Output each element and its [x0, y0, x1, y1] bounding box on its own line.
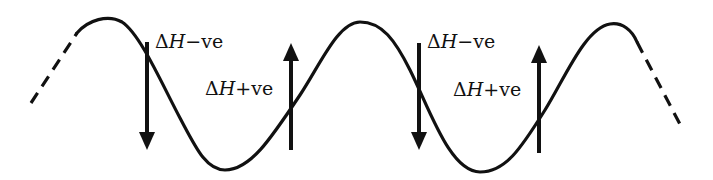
arrow-up-2	[531, 45, 547, 153]
delta-h-positive-label-2: ΔH+ve	[453, 80, 521, 99]
arrow-up-1	[283, 43, 299, 150]
delta-h-positive-label-1: ΔH+ve	[205, 79, 273, 98]
arrow-down-2	[411, 43, 427, 150]
sign-text: −ve	[185, 30, 223, 52]
enthalpy-wave-diagram	[0, 0, 713, 180]
delta-symbol: Δ	[427, 30, 441, 52]
sign-text: +ve	[235, 77, 273, 99]
delta-h-negative-label-2: ΔH−ve	[427, 32, 495, 51]
wave-dashed-start	[31, 33, 77, 103]
enthalpy-symbol: H	[441, 30, 458, 52]
wave-dashed-end	[637, 42, 683, 130]
delta-symbol: Δ	[155, 30, 169, 52]
enthalpy-symbol: H	[467, 78, 484, 100]
delta-h-negative-label-1: ΔH−ve	[155, 32, 223, 51]
sign-text: +ve	[483, 78, 521, 100]
sign-text: −ve	[457, 30, 495, 52]
delta-symbol: Δ	[453, 78, 467, 100]
delta-symbol: Δ	[205, 77, 219, 99]
arrow-down-1	[139, 42, 155, 150]
enthalpy-symbol: H	[169, 30, 186, 52]
enthalpy-symbol: H	[219, 77, 236, 99]
